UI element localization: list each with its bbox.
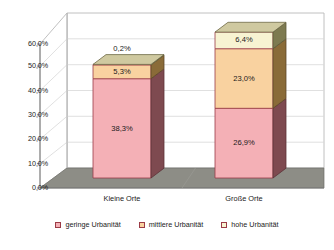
x-axis-label-kleine-orte: Kleine Orte: [80, 194, 164, 203]
chart-container: 60,0% 50,0% 40,0% 30,0% 20,0% 10,0% 0,0%…: [0, 0, 334, 250]
chart-plot-area: [0, 0, 334, 250]
x-axis-label-grosse-orte: Große Orte: [202, 194, 286, 203]
data-label-kleine-orte-geringe: 38,3%: [93, 124, 151, 133]
legend-swatch-icon-hohe: [221, 222, 227, 228]
legend-swatch-icon-mittlere: [139, 222, 145, 228]
data-label-grosse-orte-geringe: 26,9%: [215, 138, 273, 147]
legend-label-geringe: geringe Urbanität: [65, 221, 120, 229]
chart-legend: geringe Urbanität mittlere Urbanität hoh…: [0, 216, 334, 234]
legend-item-hohe-urbanitaet[interactable]: hohe Urbanität: [221, 221, 278, 229]
data-label-kleine-orte-hohe: 0,2%: [93, 44, 151, 53]
bar-segment-grosse-orte-mittlere-side[interactable]: [273, 39, 286, 108]
legend-label-mittlere: mittlere Urbanität: [149, 221, 204, 229]
bar-segment-grosse-orte-geringe-side[interactable]: [273, 99, 286, 179]
y-tick-label-30: 30,0%: [2, 111, 48, 119]
legend-item-geringe-urbanitaet[interactable]: geringe Urbanität: [55, 221, 120, 229]
data-label-kleine-orte-mittlere: 5,3%: [93, 67, 151, 76]
y-tick-label-40: 40,0%: [2, 87, 48, 95]
legend-swatch-icon-geringe: [55, 222, 61, 228]
bar-top-cap-kleine-orte: [93, 55, 164, 65]
y-tick-label-50: 50,0%: [2, 62, 48, 70]
y-tick-label-10: 10,0%: [2, 160, 48, 168]
data-label-grosse-orte-mittlere: 23,0%: [215, 74, 273, 83]
y-axis-labels: 60,0% 50,0% 40,0% 30,0% 20,0% 10,0% 0,0%: [0, 0, 48, 250]
y-tick-label-20: 20,0%: [2, 135, 48, 143]
bar-group-grosse-orte[interactable]: [215, 22, 286, 178]
data-label-grosse-orte-hohe: 6,4%: [215, 35, 273, 44]
legend-item-mittlere-urbanitaet[interactable]: mittlere Urbanität: [139, 221, 204, 229]
y-tick-label-0: 0,0%: [2, 184, 48, 192]
y-tick-label-60: 60,0%: [2, 40, 48, 48]
bar-segment-kleine-orte-geringe-side[interactable]: [151, 69, 164, 178]
legend-label-hohe: hohe Urbanität: [231, 221, 278, 229]
bar-top-cap-grosse-orte: [215, 22, 286, 32]
